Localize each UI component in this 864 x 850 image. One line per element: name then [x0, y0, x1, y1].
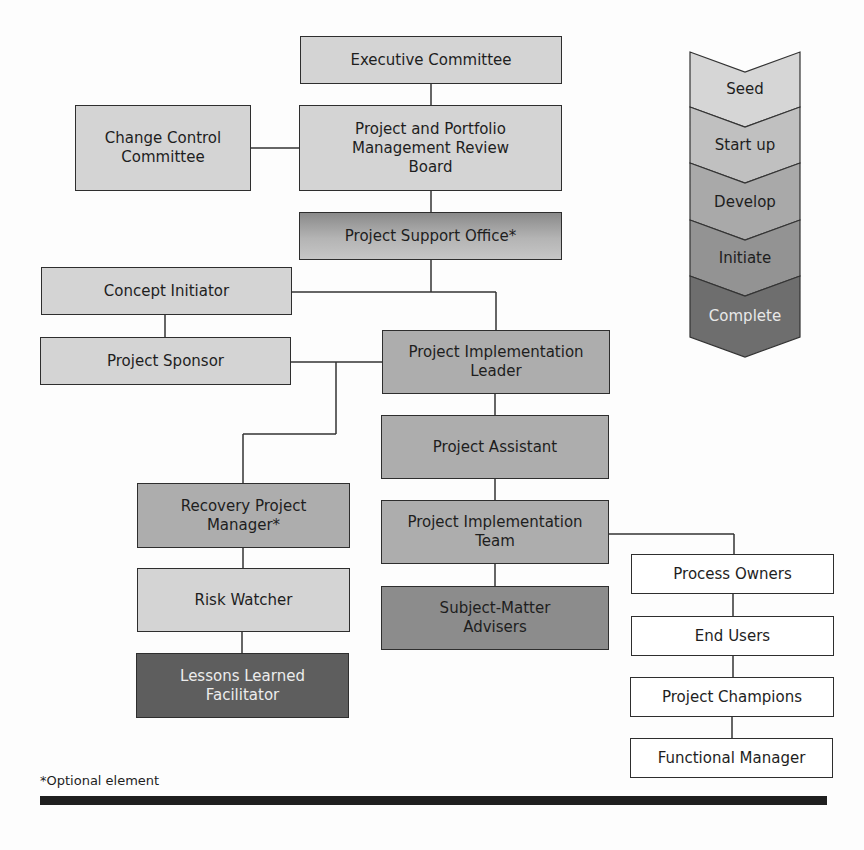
risk-watcher-box: Risk Watcher — [137, 568, 350, 632]
phase-initiate-label: Initiate — [690, 249, 800, 267]
functional-manager-label: Functional Manager — [658, 749, 806, 768]
project-implementation-team-box: Project Implementation Team — [381, 500, 609, 564]
subject-matter-advisers-label: Subject-Matter Advisers — [432, 599, 558, 637]
subject-matter-advisers-box: Subject-Matter Advisers — [381, 586, 609, 650]
project-assistant-box: Project Assistant — [381, 415, 609, 479]
project-champions-box: Project Champions — [630, 677, 834, 717]
executive-committee-label: Executive Committee — [350, 51, 511, 70]
process-owners-box: Process Owners — [631, 554, 834, 594]
phase-complete-label: Complete — [690, 307, 800, 325]
lessons-learned-facilitator-box: Lessons Learned Facilitator — [136, 653, 349, 718]
end-users-box: End Users — [631, 616, 834, 656]
change-control-committee-label: Change Control Committee — [90, 129, 236, 167]
risk-watcher-label: Risk Watcher — [195, 591, 293, 610]
change-control-committee-box: Change Control Committee — [75, 105, 251, 191]
project-support-office-label: Project Support Office* — [345, 227, 516, 246]
end-users-label: End Users — [695, 627, 770, 646]
project-assistant-label: Project Assistant — [433, 438, 557, 457]
project-implementation-leader-label: Project Implementation Leader — [387, 343, 605, 381]
executive-committee-box: Executive Committee — [300, 36, 562, 84]
concept-initiator-box: Concept Initiator — [41, 267, 292, 315]
recovery-project-manager-label: Recovery Project Manager* — [162, 497, 325, 535]
project-implementation-leader-box: Project Implementation Leader — [382, 330, 610, 394]
bottom-rule — [40, 796, 827, 805]
project-sponsor-label: Project Sponsor — [107, 352, 224, 371]
phase-start-up-label: Start up — [690, 136, 800, 154]
footnote: *Optional element — [40, 773, 159, 788]
lessons-learned-facilitator-label: Lessons Learned Facilitator — [167, 667, 318, 705]
project-sponsor-box: Project Sponsor — [40, 337, 291, 385]
ppm-review-board-box: Project and Portfolio Management Review … — [299, 105, 562, 191]
project-champions-label: Project Champions — [662, 688, 802, 707]
phase-seed-label: Seed — [690, 80, 800, 98]
process-owners-label: Process Owners — [673, 565, 791, 584]
concept-initiator-label: Concept Initiator — [104, 282, 229, 301]
recovery-project-manager-box: Recovery Project Manager* — [137, 483, 350, 548]
project-support-office-box: Project Support Office* — [299, 212, 562, 260]
project-implementation-team-label: Project Implementation Team — [386, 513, 604, 551]
phase-develop-label: Develop — [690, 193, 800, 211]
ppm-review-board-label: Project and Portfolio Management Review … — [340, 120, 521, 177]
functional-manager-box: Functional Manager — [630, 738, 833, 778]
